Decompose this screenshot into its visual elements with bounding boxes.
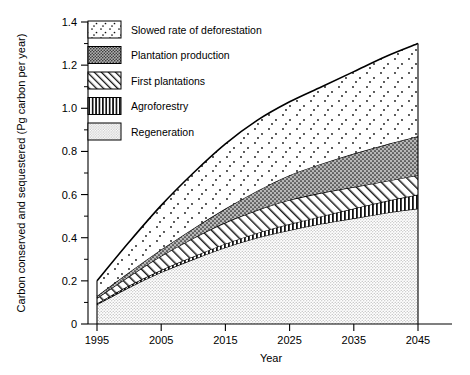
x-tick-label: 2035 [342,334,366,346]
y-tick-label: 0.2 [62,275,77,287]
chart-figure: 00.20.40.60.81.01.21.4 19952005201520252… [0,0,470,375]
x-tick-label: 1995 [85,334,109,346]
stacked-area-chart: 00.20.40.60.81.01.21.4 19952005201520252… [0,0,470,375]
legend-label: Agroforestry [131,100,189,112]
legend-label: First plantations [131,75,205,87]
legend-label: Slowed rate of deforestation [131,24,262,36]
y-tick-label: 1.4 [62,16,77,28]
legend-label: Regeneration [131,126,194,138]
y-tick-label: 1.2 [62,59,77,71]
y-tick-label: 1.0 [62,102,77,114]
legend-swatch-dense-dark-dots [88,47,121,64]
legend-swatch-fine-light-dots [88,123,121,140]
y-tick-label: 0.6 [62,189,77,201]
x-tick-label: 2005 [149,334,173,346]
y-axis-title: Carbon conserved and sequestered (Pg car… [15,34,27,313]
x-tick-label: 2025 [277,334,301,346]
x-tick-label: 2045 [406,334,430,346]
y-tick-label: 0.4 [62,232,77,244]
y-tick-label: 0.8 [62,145,77,157]
legend-swatch-sparse-dots [88,21,121,38]
legend-swatch-vertical-lines [88,98,121,115]
x-tick-label: 2015 [213,334,237,346]
y-tick-label: 0 [71,318,77,330]
legend-swatch-diagonal-hatch [88,72,121,89]
x-axis-title: Year [260,352,283,364]
legend-label: Plantation production [131,49,230,61]
